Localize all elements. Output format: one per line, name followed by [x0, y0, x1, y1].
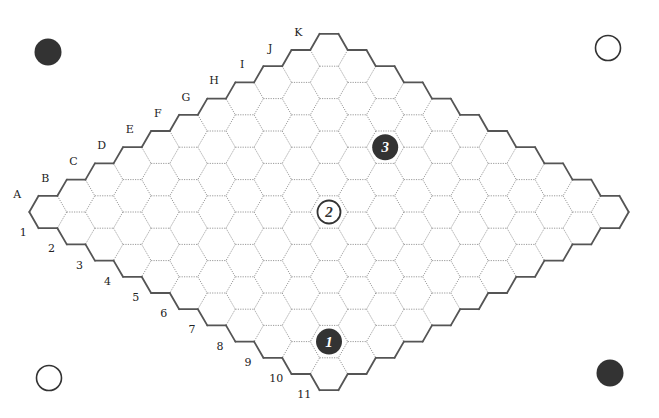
stone-black-3: 3 — [372, 134, 398, 160]
column-label-H: H — [209, 74, 219, 87]
row-label-7: 7 — [188, 323, 195, 336]
column-label-B: B — [41, 172, 49, 185]
column-label-F: F — [154, 107, 162, 120]
hex-board: ABCDEFGHIJK 1234567891011 123 — [0, 0, 659, 418]
column-label-C: C — [69, 155, 77, 168]
row-label-11: 11 — [297, 388, 311, 401]
corner-marker-top-left-black — [35, 39, 62, 66]
stone-black-1: 1 — [316, 329, 342, 355]
column-label-I: I — [240, 58, 244, 71]
column-label-D: D — [97, 139, 106, 152]
row-label-6: 6 — [160, 307, 167, 320]
row-label-1: 1 — [20, 226, 27, 239]
row-label-9: 9 — [245, 356, 252, 369]
row-label-5: 5 — [132, 291, 139, 304]
column-label-K: K — [294, 26, 303, 39]
row-label-4: 4 — [104, 275, 111, 288]
column-label-A: A — [12, 188, 22, 201]
row-label-10: 10 — [269, 372, 283, 385]
row-label-3: 3 — [76, 259, 83, 272]
stone-white-2: 2 — [318, 201, 341, 224]
column-label-J: J — [267, 42, 272, 55]
column-label-E: E — [126, 123, 134, 136]
corner-marker-bottom-left-white — [37, 366, 62, 391]
move-number: 2 — [324, 204, 333, 220]
row-label-2: 2 — [48, 242, 55, 255]
column-label-G: G — [182, 91, 191, 104]
corner-marker-top-right-white — [596, 36, 621, 61]
corner-marker-bottom-right-black — [597, 360, 624, 387]
row-label-8: 8 — [217, 340, 224, 353]
move-number: 3 — [380, 139, 389, 155]
move-number: 1 — [325, 334, 333, 350]
